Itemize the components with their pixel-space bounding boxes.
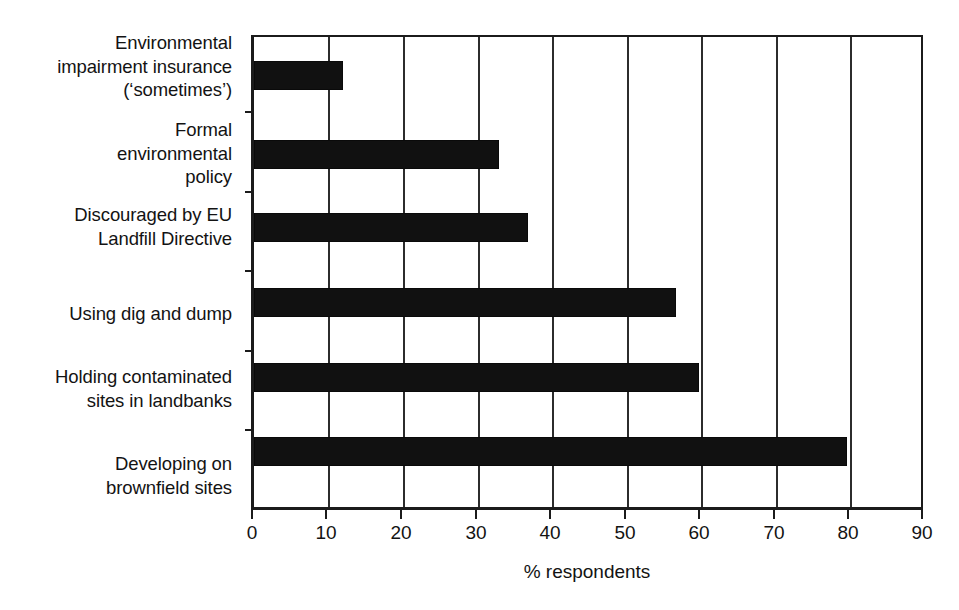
- y-axis-tick: [245, 191, 254, 193]
- category-label: Formal environmental policy: [0, 118, 232, 189]
- x-axis-tick-label: 30: [453, 522, 499, 544]
- x-axis-tick-label: 80: [825, 522, 871, 544]
- y-axis-tick: [245, 270, 254, 272]
- bar-chart: Environmental impairment insurance (‘som…: [0, 0, 959, 610]
- bar-discouraged-by-eu-landfill-directive: [254, 213, 528, 242]
- x-axis-tick: [251, 510, 253, 519]
- y-axis-tick: [245, 429, 254, 431]
- x-axis-tick-label: 70: [751, 522, 797, 544]
- x-axis-tick: [475, 510, 477, 519]
- x-axis-tick-label: 50: [602, 522, 648, 544]
- x-axis-tick: [921, 510, 923, 519]
- plot-area: [251, 35, 923, 510]
- x-axis-tick: [847, 510, 849, 519]
- bar-holding-contaminated-sites: [254, 363, 699, 392]
- category-label: Using dig and dump: [0, 302, 232, 326]
- x-axis-tick-label: 20: [378, 522, 424, 544]
- x-axis-tick-label: 40: [527, 522, 573, 544]
- bar-environmental-impairment-insurance: [254, 61, 343, 90]
- category-label: Developing on brownfield sites: [0, 452, 232, 499]
- x-axis-tick: [325, 510, 327, 519]
- bar-formal-environmental-policy: [254, 140, 499, 169]
- gridline-80: [850, 37, 852, 507]
- x-axis-tick-label: 0: [229, 522, 275, 544]
- category-axis-labels: Environmental impairment insurance (‘som…: [0, 35, 240, 510]
- x-axis-tick: [773, 510, 775, 519]
- bar-using-dig-and-dump: [254, 288, 676, 317]
- x-axis-tick: [698, 510, 700, 519]
- category-label: Environmental impairment insurance (‘som…: [0, 31, 232, 102]
- bar-developing-on-brownfield-sites: [254, 437, 847, 466]
- x-axis-tick-label: 90: [899, 522, 945, 544]
- x-axis: 0 10 20 30 40 50 60 70 80 90: [251, 510, 923, 550]
- x-axis-tick-label: 10: [303, 522, 349, 544]
- y-axis-tick: [245, 350, 254, 352]
- x-axis-tick-label: 60: [676, 522, 722, 544]
- y-axis-tick: [245, 111, 254, 113]
- category-label: Discouraged by EU Landfill Directive: [0, 203, 232, 250]
- x-axis-title: % respondents: [251, 560, 923, 583]
- x-axis-tick: [624, 510, 626, 519]
- x-axis-tick: [549, 510, 551, 519]
- x-axis-tick: [400, 510, 402, 519]
- category-label: Holding contaminated sites in landbanks: [0, 365, 232, 412]
